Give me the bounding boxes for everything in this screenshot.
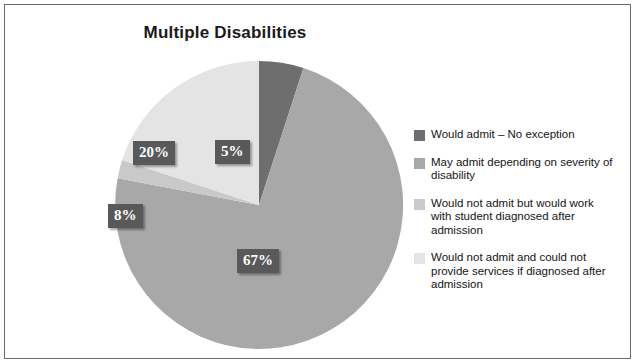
slice-label-1: 5% <box>215 140 250 164</box>
legend-item-may-admit-depending-on-severity[interactable]: May admit depending on severity of disab… <box>414 156 614 183</box>
slice-label-2: 67% <box>237 249 279 273</box>
pie-svg <box>111 57 407 353</box>
slice-label-3: 8% <box>108 204 143 228</box>
legend-item-would-admit-no-exception[interactable]: Would admit – No exception <box>414 128 614 142</box>
slice-label-4: 20% <box>133 141 175 165</box>
legend-item-label: May admit depending on severity of disab… <box>431 156 614 183</box>
legend-swatch-icon <box>414 199 425 210</box>
chart-legend: Would admit – No exception May admit dep… <box>414 128 614 306</box>
legend-item-label: Would not admit and could not provide se… <box>431 251 614 292</box>
legend-swatch-icon <box>414 158 425 169</box>
legend-swatch-icon <box>414 253 425 264</box>
page-title: Multiple Disabilities <box>5 23 445 43</box>
legend-swatch-icon <box>414 130 425 141</box>
legend-item-label: Would not admit but would work with stud… <box>431 197 614 238</box>
pie-chart: 5% 67% 8% 20% <box>111 57 407 353</box>
legend-item-would-not-admit-and-could-not-provide[interactable]: Would not admit and could not provide se… <box>414 251 614 292</box>
legend-item-would-not-admit-but-would-work[interactable]: Would not admit but would work with stud… <box>414 197 614 238</box>
legend-item-label: Would admit – No exception <box>431 128 575 142</box>
chart-frame: Multiple Disabilities 5% 67% 8% 20% Woul… <box>4 4 631 359</box>
